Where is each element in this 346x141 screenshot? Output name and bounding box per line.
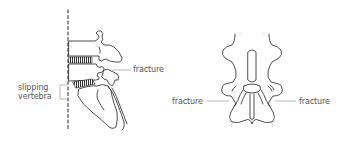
spinous-process (248, 50, 256, 82)
middle-vertebra-body (69, 64, 104, 81)
lower-lamina (243, 84, 260, 93)
upper-disc (69, 57, 92, 63)
slipping-vertebra-bracket (60, 85, 67, 99)
posterior-spine-view (222, 34, 282, 124)
spine-diagram: fracture slipping vertebra fracture frac… (0, 0, 346, 141)
slipping-label-line2: vertebra (18, 92, 51, 101)
fracture-label-lateral: fracture (133, 65, 164, 74)
slipping-label-line1: slipping (18, 83, 48, 92)
spine-illustrations (0, 0, 346, 141)
fracture-label-posterior-right: fracture (299, 97, 330, 106)
middle-vertebra-process (102, 69, 119, 86)
fracture-label-posterior-left: fracture (172, 97, 203, 106)
